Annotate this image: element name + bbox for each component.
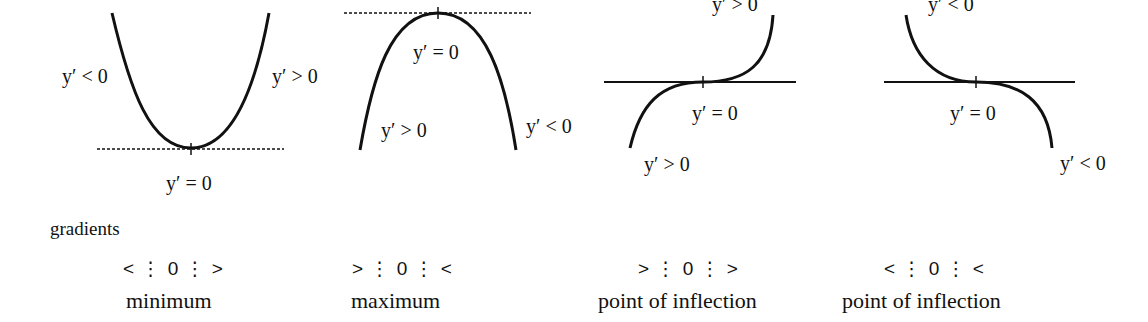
inflection-falling-gradient-pattern: < ⋮ 0 ⋮ < xyxy=(884,257,985,280)
minimum-gradient-pattern: < ⋮ 0 ⋮ > xyxy=(123,257,224,280)
inflection-rising-bottom-label: y′ > 0 xyxy=(644,154,690,174)
maximum-left-label: y′ > 0 xyxy=(381,120,427,140)
gradients-title: gradients xyxy=(50,218,120,240)
minimum-right-label: y′ > 0 xyxy=(272,66,318,86)
inflection-rising-caption: point of inflection xyxy=(598,288,757,314)
inflection-rising-top-label: y′ > 0 xyxy=(712,0,758,14)
inflection-falling-top-label: y′ < 0 xyxy=(928,0,974,14)
inflection-falling-middle-label: y′ = 0 xyxy=(950,103,996,123)
inflection-falling-caption: point of inflection xyxy=(842,288,1001,314)
inflection-falling-bottom-label: y′ < 0 xyxy=(1060,153,1106,173)
maximum-top-label: y′ = 0 xyxy=(413,42,459,62)
minimum-curve xyxy=(112,13,269,148)
minimum-bottom-label: y′ = 0 xyxy=(166,173,212,193)
maximum-gradient-pattern: > ⋮ 0 ⋮ < xyxy=(352,257,453,280)
maximum-caption: maximum xyxy=(351,288,440,314)
maximum-right-label: y′ < 0 xyxy=(526,116,572,136)
inflection-rising-gradient-pattern: > ⋮ 0 ⋮ > xyxy=(638,257,739,280)
inflection-rising-middle-label: y′ = 0 xyxy=(692,103,738,123)
minimum-left-label: y′ < 0 xyxy=(62,66,108,86)
minimum-caption: minimum xyxy=(126,288,212,314)
